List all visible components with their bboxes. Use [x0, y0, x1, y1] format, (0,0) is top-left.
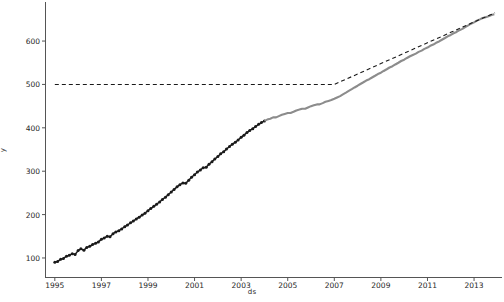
data-point-marker [167, 193, 170, 196]
data-point-marker [187, 179, 190, 182]
data-point-marker [100, 238, 103, 241]
data-point-marker [184, 182, 187, 185]
data-point-marker [234, 141, 237, 144]
data-point-marker [120, 227, 123, 230]
series-forecast [55, 13, 495, 85]
data-point-marker [248, 129, 251, 132]
data-point-marker [211, 160, 214, 163]
data-point-marker [109, 235, 112, 238]
data-point-marker [190, 176, 193, 179]
data-point-marker [146, 209, 149, 212]
data-point-marker [240, 136, 243, 139]
data-point-marker [173, 188, 176, 191]
data-point-marker [216, 155, 219, 158]
data-point-marker [103, 237, 106, 240]
x-tick-label: 2005 [278, 281, 297, 290]
y-tick-label: 500 [14, 80, 40, 89]
x-tick-label: 2001 [185, 281, 204, 290]
y-tick-label: 200 [14, 210, 40, 219]
data-point-marker [94, 242, 97, 245]
data-point-marker [62, 257, 65, 260]
data-point-marker [202, 166, 205, 169]
data-point-marker [77, 249, 80, 252]
data-point-marker [219, 152, 222, 155]
x-axis-label: ds [248, 288, 257, 296]
data-point-marker [79, 247, 82, 250]
data-point-marker [257, 123, 260, 126]
data-point-marker [123, 225, 126, 228]
data-point-marker [68, 254, 71, 257]
data-point-marker [161, 198, 164, 201]
y-tick-label: 400 [14, 123, 40, 132]
data-point-marker [254, 125, 257, 128]
data-point-marker [143, 212, 146, 215]
x-tick-label: 1999 [138, 281, 157, 290]
data-point-marker [114, 230, 117, 233]
data-point-marker [141, 214, 144, 217]
data-point-marker [242, 134, 245, 137]
data-point-marker [91, 243, 94, 246]
data-point-marker [260, 121, 263, 124]
y-tick-label: 300 [14, 167, 40, 176]
data-point-marker [222, 150, 225, 153]
data-point-marker [208, 163, 211, 166]
chart-series-layer [53, 13, 495, 264]
data-point-marker [149, 207, 152, 210]
data-point-marker [251, 127, 254, 130]
y-axis-label: y [0, 148, 7, 152]
data-point-marker [88, 245, 91, 248]
data-point-marker [213, 158, 216, 161]
data-point-marker [56, 260, 59, 263]
data-point-marker [112, 232, 115, 235]
x-tick-label: 2009 [371, 281, 390, 290]
data-point-marker [245, 131, 248, 134]
data-point-marker [74, 253, 77, 256]
data-point-marker [129, 221, 132, 224]
x-tick-label: 1997 [92, 281, 111, 290]
y-axis-tick-marks [42, 41, 46, 258]
data-point-marker [193, 173, 196, 176]
data-point-marker [196, 171, 199, 174]
y-tick-label: 100 [14, 253, 40, 262]
data-point-marker [231, 143, 234, 146]
data-point-marker [65, 255, 68, 258]
series-observed [55, 121, 265, 262]
x-tick-label: 2013 [465, 281, 484, 290]
data-point-marker [205, 166, 208, 169]
data-point-marker [106, 235, 109, 238]
data-point-marker [82, 249, 85, 252]
data-point-marker [176, 185, 179, 188]
data-point-marker [71, 252, 74, 255]
data-point-marker [158, 201, 161, 204]
data-point-marker [97, 240, 100, 243]
data-point-marker [237, 138, 240, 141]
data-point-marker [155, 203, 158, 206]
data-point-marker [199, 168, 202, 171]
series-actual [264, 14, 494, 121]
data-point-marker [132, 220, 135, 223]
y-tick-label: 600 [14, 37, 40, 46]
x-tick-label: 2007 [325, 281, 344, 290]
data-point-marker [117, 229, 120, 232]
data-point-marker [138, 216, 141, 219]
data-point-marker [59, 258, 62, 261]
data-point-marker [135, 217, 138, 220]
data-point-marker [181, 181, 184, 184]
x-axis-tick-marks [55, 278, 474, 282]
data-point-marker [228, 145, 231, 148]
figure-canvas: 1995199719992001200320052007200920112013… [0, 0, 504, 302]
data-point-marker [126, 224, 129, 227]
x-tick-label: 2011 [418, 281, 437, 290]
chart-plot-area [0, 0, 504, 302]
data-point-marker [178, 183, 181, 186]
data-point-marker [152, 205, 155, 208]
x-tick-label: 1995 [45, 281, 64, 290]
data-point-marker [53, 261, 56, 264]
data-point-marker [85, 246, 88, 249]
data-point-marker [164, 196, 167, 199]
data-point-marker [170, 191, 173, 194]
data-point-marker [225, 148, 228, 151]
